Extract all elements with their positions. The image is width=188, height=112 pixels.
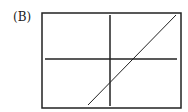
graph-frame <box>42 13 181 108</box>
graph-diagram <box>0 0 188 112</box>
linear-function-line <box>88 15 176 105</box>
